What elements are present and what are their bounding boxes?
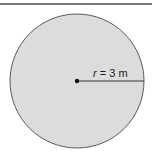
circle-diagram: r = 3 m bbox=[0, 0, 152, 156]
center-point bbox=[75, 79, 79, 83]
radius-label: r = 3 m bbox=[93, 67, 128, 79]
